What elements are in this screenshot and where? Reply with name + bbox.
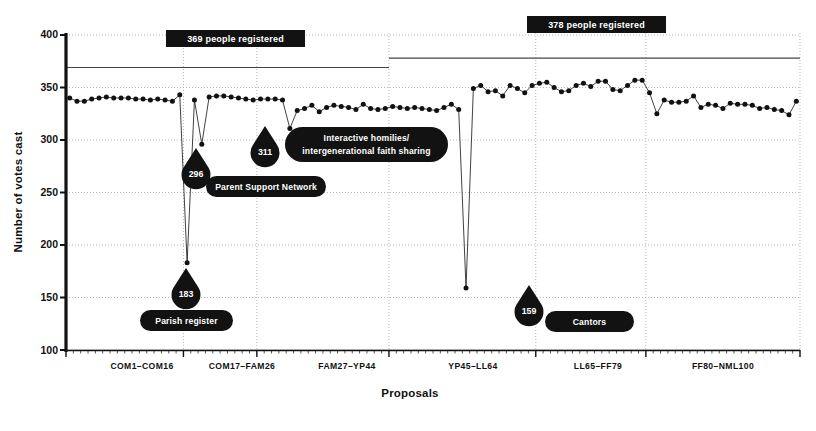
y-tick-350: 350 <box>40 81 58 93</box>
x-axis-title: Proposals <box>381 387 438 399</box>
votes-cast-line-chart: Number of votes cast Proposals 400 350 3… <box>0 0 816 431</box>
x-category-ff80-nml100: FF80–NML100 <box>692 361 754 371</box>
x-category-yp45-ll64: YP45–LL64 <box>448 361 497 371</box>
x-category-ll65-ff79: LL65–FF79 <box>574 361 623 371</box>
datapoint-badge-159-value: 159 <box>522 306 537 316</box>
callout-parish-register-label: Parish register <box>155 316 218 326</box>
datapoint-badge-183-value: 183 <box>179 289 194 299</box>
callout-parish-register: Parish register <box>140 310 233 331</box>
banner-378-label: 378 people registered <box>548 20 645 30</box>
y-tick-200: 200 <box>40 238 58 250</box>
y-axis-title: Number of votes cast <box>12 132 24 253</box>
callout-parent-support-network-label: Parent Support Network <box>215 182 317 192</box>
datapoint-badge-311-value: 311 <box>258 147 272 157</box>
y-tick-400: 400 <box>40 28 58 40</box>
callout-parent-support-network: Parent Support Network <box>206 176 326 197</box>
chart-container: Number of votes cast Proposals 400 350 3… <box>0 0 816 431</box>
datapoint-badge-296-value: 296 <box>189 169 204 179</box>
x-category-com17-fam26: COM17–FAM26 <box>209 361 276 371</box>
banner-369-registered: 369 people registered <box>166 30 305 47</box>
y-tick-150: 150 <box>40 291 58 303</box>
x-category-com1-com16: COM1–COM16 <box>110 361 173 371</box>
y-tick-100: 100 <box>40 344 58 356</box>
callout-interactive-homilies-line1: Interactive homilies/ <box>324 133 410 143</box>
y-tick-250: 250 <box>40 186 58 198</box>
y-tick-300: 300 <box>40 133 58 145</box>
callout-cantors-label: Cantors <box>573 317 607 327</box>
banner-378-registered: 378 people registered <box>527 16 666 33</box>
callout-interactive-homilies: Interactive homilies/ intergenerational … <box>285 127 448 162</box>
banner-369-label: 369 people registered <box>187 34 284 44</box>
x-category-fam27-yp44: FAM27–YP44 <box>318 361 376 371</box>
callout-cantors: Cantors <box>545 311 634 332</box>
callout-interactive-homilies-line2: intergenerational faith sharing <box>302 146 430 156</box>
